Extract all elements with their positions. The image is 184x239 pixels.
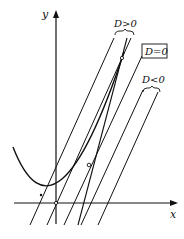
label-d-zero: D=0 (144, 46, 168, 57)
label-d-negative: D<0 (141, 74, 165, 85)
line-d-negative-2 (98, 92, 158, 225)
intersection-point-left (40, 194, 42, 196)
vertex-point (54, 201, 57, 204)
line-d-negative-1 (81, 90, 143, 225)
parabola-curve (13, 52, 124, 186)
tangent-point (87, 163, 91, 167)
label-d-positive: D>0 (113, 18, 137, 29)
intersection-point-top (120, 56, 123, 59)
line-tangent-d-zero (64, 56, 142, 225)
brace-d-negative (143, 86, 160, 92)
y-axis-label: y (41, 8, 49, 21)
line-d-positive-2 (47, 38, 131, 225)
brace-d-positive (115, 29, 134, 35)
line-d-positive-1 (30, 38, 114, 225)
parabola-line-intersection-diagram: x y D>0 D=0 D<0 (0, 0, 184, 239)
x-axis-label: x (170, 208, 177, 221)
line-steep (78, 38, 127, 225)
